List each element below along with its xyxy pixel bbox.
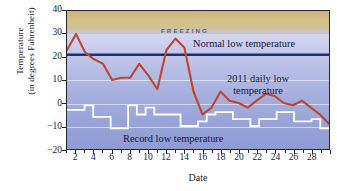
x-tick-mark-1	[66, 150, 67, 153]
temperature-line-chart: Temperature (in degrees Fahrenheit) 40 3…	[0, 0, 337, 191]
x-tick-mark-5	[102, 150, 103, 153]
x-tick-label-18: 18	[216, 153, 226, 163]
y-tick-mark-0	[62, 103, 66, 104]
y-tick-mark-40	[62, 10, 66, 11]
x-tick-mark-17	[212, 150, 213, 153]
x-tick-mark-30	[330, 150, 331, 154]
x-tick-label-14: 14	[180, 153, 190, 163]
x-tick-mark-15	[193, 150, 194, 153]
x-tick-mark-29	[321, 150, 322, 153]
x-tick-label-12: 12	[161, 153, 171, 163]
x-tick-label-4: 4	[91, 153, 96, 163]
y-tick-mark--10	[62, 127, 66, 128]
x-tick-mark-27	[303, 150, 304, 153]
x-tick-label-20: 20	[234, 153, 244, 163]
x-tick-mark-11	[157, 150, 158, 153]
x-tick-mark-7	[121, 150, 122, 153]
y-tick-mark-30	[62, 33, 66, 34]
x-tick-mark-3	[84, 150, 85, 153]
x-tick-label-28: 28	[307, 153, 317, 163]
y-tick-mark-10	[62, 80, 66, 81]
x-tick-label-22: 22	[252, 153, 262, 163]
x-tick-mark-9	[139, 150, 140, 153]
x-tick-mark-21	[248, 150, 249, 153]
x-tick-label-24: 24	[271, 153, 281, 163]
x-tick-label-2: 2	[73, 153, 78, 163]
y-tick-mark--20	[62, 150, 66, 151]
x-tick-label-16: 16	[198, 153, 208, 163]
x-axis-tick-labels: 246810121416182022242628	[0, 0, 337, 191]
x-tick-label-6: 6	[109, 153, 114, 163]
x-tick-label-8: 8	[127, 153, 132, 163]
x-tick-label-26: 26	[289, 153, 299, 163]
x-tick-mark-23	[266, 150, 267, 153]
x-tick-mark-25	[285, 150, 286, 153]
x-tick-mark-13	[175, 150, 176, 153]
x-tick-label-10: 10	[143, 153, 153, 163]
x-axis-title: Date	[66, 172, 330, 183]
x-tick-mark-19	[230, 150, 231, 153]
y-tick-mark-20	[62, 57, 66, 58]
